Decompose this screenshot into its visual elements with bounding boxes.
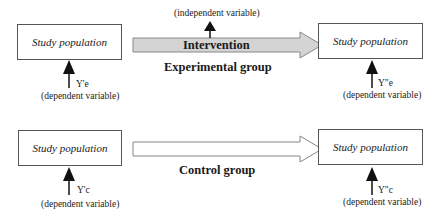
independent-variable-arrowhead	[204, 21, 216, 31]
dependent-arrowhead-ctrl-after	[366, 167, 378, 181]
study-population-ctrl-before: Study population	[18, 130, 122, 166]
measure-ctrl-after: Y"c	[378, 185, 393, 195]
study-population-exp-before: Study population	[17, 24, 122, 60]
measure-exp-after: Y"e	[378, 78, 393, 88]
measure-ctrl-before: Y'c	[77, 185, 90, 195]
independent-variable-label: (independent variable)	[174, 8, 260, 18]
dependent-variable-exp-before: (dependent variable)	[41, 91, 119, 101]
dependent-variable-ctrl-before: (dependent variable)	[41, 199, 119, 209]
dependent-variable-exp-after: (dependent variable)	[343, 90, 421, 100]
control-arrow	[133, 136, 322, 162]
dependent-arrowhead-exp-before	[63, 60, 75, 74]
dependent-variable-ctrl-after: (dependent variable)	[343, 197, 421, 207]
intervention-label: Intervention	[183, 38, 250, 53]
measure-exp-before: Y'e	[76, 79, 89, 89]
study-population-exp-after: Study population	[318, 23, 423, 59]
study-population-ctrl-after: Study population	[318, 129, 423, 165]
experimental-group-label: Experimental group	[164, 60, 272, 75]
control-group-label: Control group	[179, 163, 255, 178]
dependent-arrowhead-ctrl-before	[63, 167, 75, 181]
dependent-arrowhead-exp-after	[366, 60, 378, 74]
experimental-design-diagram: (independent variable) Study population …	[0, 0, 441, 219]
